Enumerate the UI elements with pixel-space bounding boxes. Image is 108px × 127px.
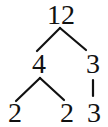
edge-12-to-3 [60,28,86,50]
node-root-12: 12 [47,1,75,29]
node-leaf-2-left: 2 [8,99,22,127]
node-leaf-3: 3 [87,99,101,127]
node-4: 4 [32,50,46,78]
node-3-upper: 3 [86,50,100,78]
node-leaf-2-right: 2 [60,99,74,127]
factor-tree: 12 4 3 2 2 3 [0,0,108,127]
